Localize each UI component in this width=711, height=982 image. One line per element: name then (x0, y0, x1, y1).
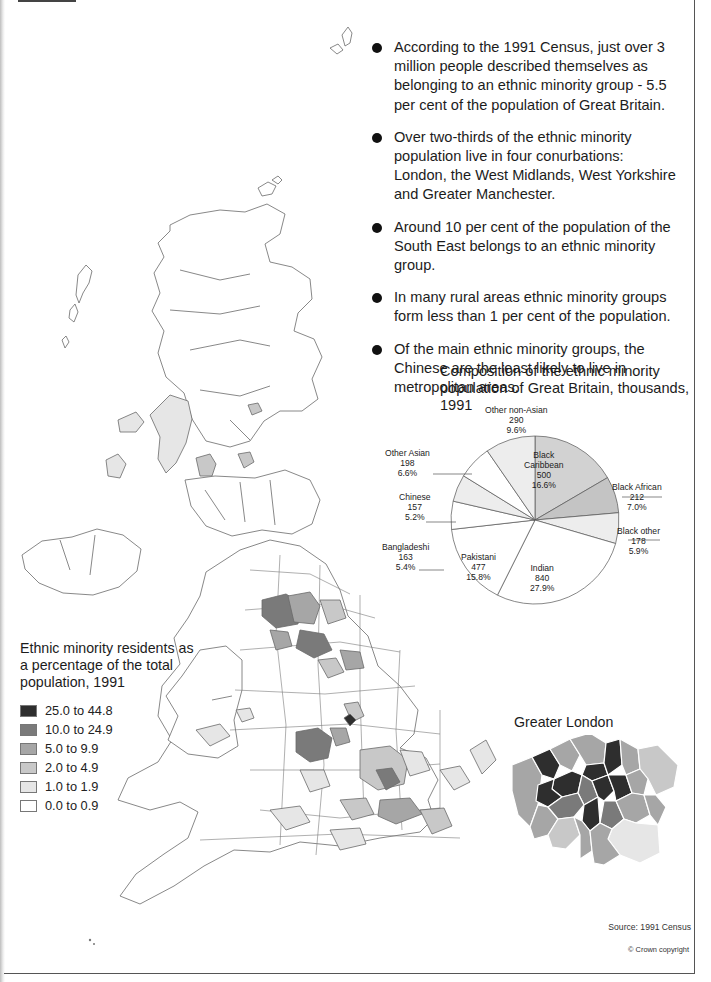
legend-item: 1.0 to 1.9 (20, 777, 200, 796)
pie-label-chinese: Chinese1575.2% (399, 492, 431, 522)
legend-label: 2.0 to 4.9 (45, 760, 98, 775)
pie-chart: Other non-Asian2909.6% Other Asian1986.6… (370, 410, 700, 610)
pie-label-black-african: Black African2127.0% (612, 482, 662, 512)
legend-swatch (20, 762, 37, 774)
pie-label-black-caribbean: BlackCaribbean50016.6% (524, 450, 564, 490)
pie-label-bangladeshi: Bangladeshi1635.4% (382, 542, 429, 572)
key-fact-item: According to the 1991 Census, just over … (370, 38, 680, 115)
key-fact-item: Around 10 per cent of the population of … (370, 218, 680, 276)
key-fact-item: Over two-thirds of the ethnic minority p… (370, 128, 680, 205)
legend-swatch (20, 724, 37, 736)
pie-label-other-non-asian: Other non-Asian2909.6% (485, 405, 548, 435)
london-inset-title: Greater London (514, 714, 613, 730)
bullet-icon (372, 223, 382, 233)
greater-london-inset-map (508, 735, 688, 865)
key-facts-list: According to the 1991 Census, just over … (370, 38, 680, 410)
pie-label-pakistani: Pakistani47715.8% (461, 552, 496, 582)
legend-swatch (20, 705, 37, 717)
legend-item: 10.0 to 24.9 (20, 720, 200, 739)
bullet-icon (372, 293, 382, 303)
legend-item: 0.0 to 0.9 (20, 796, 200, 815)
key-fact-item: In many rural areas ethnic minority grou… (370, 288, 680, 326)
bullet-icon (372, 43, 382, 53)
legend-item: 25.0 to 44.8 (20, 701, 200, 720)
pie-label-other-asian: Other Asian1986.6% (385, 448, 430, 478)
legend-swatch (20, 743, 37, 755)
pie-chart-title: Composition of the ethnic minority popul… (440, 363, 690, 414)
legend-item: 2.0 to 4.9 (20, 758, 200, 777)
copyright-note: © Crown copyright (628, 945, 689, 954)
bullet-icon (372, 133, 382, 143)
legend-label: 10.0 to 24.9 (45, 722, 113, 737)
pie-label-indian: Indian84027.9% (530, 563, 554, 593)
source-note: Source: 1991 Census (608, 922, 691, 932)
legend-swatch (20, 781, 37, 793)
legend-swatch (20, 800, 37, 812)
page-title-cropped (18, 0, 178, 3)
bullet-icon (372, 345, 382, 355)
pie-label-black-other: Black other1785.9% (617, 526, 660, 556)
legend-label: 0.0 to 0.9 (45, 798, 98, 813)
legend-title: Ethnic minority residents as a percentag… (20, 640, 200, 691)
legend-item: 5.0 to 9.9 (20, 739, 200, 758)
map-legend: Ethnic minority residents as a percentag… (20, 640, 200, 815)
legend-label: 25.0 to 44.8 (45, 703, 113, 718)
legend-label: 1.0 to 1.9 (45, 779, 98, 794)
legend-label: 5.0 to 9.9 (45, 741, 98, 756)
